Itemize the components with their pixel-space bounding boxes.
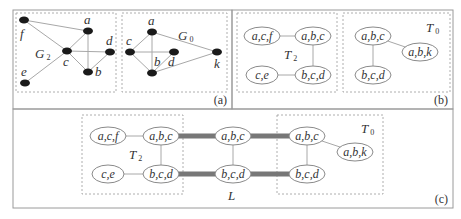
clique-node-bcd-label: b,c,d: [301, 68, 325, 82]
graph-edge: [67, 31, 88, 51]
graph-edge: [152, 52, 217, 73]
node-label-a: a: [84, 12, 91, 27]
node-label-a: a: [148, 13, 155, 28]
graph-edge: [67, 51, 88, 72]
linker-title-l: L: [227, 188, 235, 203]
tree-title-t2: T2: [284, 47, 297, 63]
graph-node-c: [125, 49, 135, 56]
clique-node-l-bcd-label: b,c,d: [221, 167, 245, 181]
graph-node-a: [147, 29, 157, 36]
clique-node-abk-label: a,b,k: [408, 45, 432, 59]
graph-node-b: [83, 69, 93, 76]
graph-title-g2: G2: [35, 46, 50, 62]
clique-node-bcd-label: b,c,d: [361, 68, 385, 82]
clique-node-t2-ce-label: c,e: [101, 167, 115, 181]
clique-node-t2-abc-label: a,b,c: [149, 129, 173, 143]
clique-node-abc-label: a,b,c: [361, 29, 385, 43]
clique-node-t0-abk-label: a,b,k: [343, 145, 367, 159]
tree-title-t2-c: T2: [129, 147, 142, 163]
clique-node-acf-label: a,c,f: [252, 29, 274, 43]
graph-node-d: [105, 49, 115, 56]
node-label-b: b: [95, 64, 102, 79]
graph-node-b: [147, 70, 157, 77]
clique-node-t2-bcd-label: b,c,d: [149, 167, 173, 181]
graph-edge: [67, 51, 110, 52]
node-label-e: e: [21, 64, 27, 79]
graph-node-a: [83, 28, 93, 35]
graph-node-e: [20, 80, 30, 87]
panel-b-label: (b): [434, 93, 448, 107]
graph-edge: [130, 32, 152, 52]
clique-node-abc-label: a,b,c: [301, 29, 325, 43]
node-label-f: f: [20, 26, 26, 41]
tree-title-t0: T0: [426, 20, 439, 36]
clique-node-t0-abc-label: a,b,c: [295, 129, 319, 143]
clique-node-t0-bcd-label: b,c,d: [295, 167, 319, 181]
panel-a-label: (a): [214, 93, 227, 107]
graph-node-f: [19, 17, 29, 24]
node-label-c: c: [126, 33, 132, 48]
node-label-k: k: [214, 56, 220, 71]
diagram-canvas: facdbeG2acdbkG0a,c,fa,b,cc,eb,c,dT2a,b,c…: [0, 0, 461, 219]
node-label-c: c: [63, 54, 69, 69]
panel-c-label: (c): [435, 192, 448, 206]
clique-node-l-abc-label: a,b,c: [221, 129, 245, 143]
graph-title-g0: G0: [178, 28, 193, 44]
graph-node-k: [212, 49, 222, 56]
clique-node-t2-acf-label: a,c,f: [98, 129, 120, 143]
graph-edge: [24, 20, 88, 31]
clique-node-ce-label: c,e: [255, 68, 269, 82]
node-label-b: b: [154, 54, 161, 69]
tree-title-t0-c: T0: [361, 121, 374, 137]
node-label-d: d: [168, 54, 175, 69]
graph-edge: [130, 52, 152, 73]
graph-edge: [24, 20, 67, 51]
node-label-d: d: [106, 33, 113, 48]
